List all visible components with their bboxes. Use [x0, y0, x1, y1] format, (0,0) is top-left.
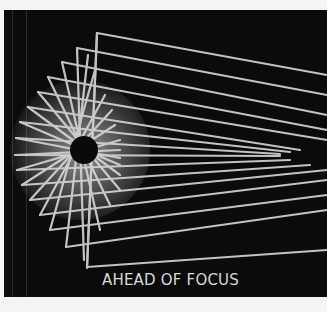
- caption-text: AHEAD OF FOCUS: [102, 271, 239, 289]
- photograph: [4, 10, 327, 297]
- light-rays-diagram: [4, 10, 327, 297]
- dark-disc: [70, 136, 98, 164]
